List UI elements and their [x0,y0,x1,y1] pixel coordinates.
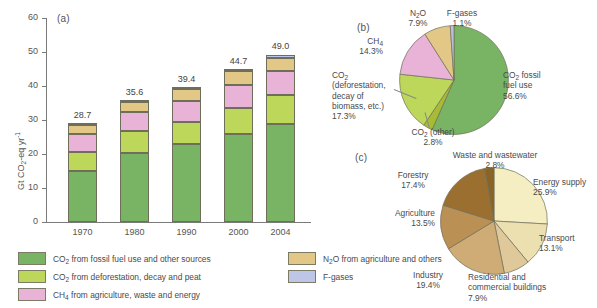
pie-chart-c [440,167,548,275]
bar-segment [266,95,295,124]
pie-b-co2fossil-value: 56.6% [503,91,527,101]
pie-b-co2other-name: CO2 (other) [411,127,454,137]
bar-segment [68,125,97,134]
legend-label: CH4 from agriculture, waste and energy [53,290,200,300]
bar-total-label: 35.6 [112,87,158,97]
legend-item: CO2 from fossil fuel use and other sourc… [18,252,211,265]
bar-segment [224,85,253,108]
bar-stack [266,55,295,222]
bar-segment [68,134,97,152]
bar-chart-panel: (a) Gt CO2-eq yr-1 6050403020100 1970198… [0,0,320,245]
pie-b-co2fossil-l1: CO2 fossil [503,70,541,80]
bar-total-label: 49.0 [258,41,304,51]
legend-label: F-gases [323,272,353,282]
legend-label: CO2 from fossil fuel use and other sourc… [53,254,211,264]
pie-b-co2defor-value: 17.3% [332,111,356,121]
y-tick [42,86,46,87]
bar-segment [68,171,97,222]
bar-segment [266,58,295,72]
pie-b-co2defor-l4: biomass, etc.) [332,101,384,111]
bar-segment [172,144,201,222]
pie-b-ch4-value: 14.3% [359,46,383,56]
pie-c-label-energy: Energy supply 25.9% [533,177,597,198]
legend-swatch [288,270,316,283]
x-tick-label: 1980 [112,227,158,237]
legend-item: F-gases [288,270,353,283]
pie-b-co2defor-l1: CO2 [332,70,348,80]
pie-c-label-industry: Industry 19.4% [400,270,456,291]
bar-total-label: 44.7 [216,56,262,66]
x-tick-label: 2000 [216,227,262,237]
y-tick [42,18,46,19]
x-tick-label: 1990 [164,227,210,237]
y-tick [42,222,46,223]
pie-c-forestry-name: Forestry [398,170,429,180]
y-tick-label: 10 [16,182,38,192]
legend-label: CO2 from deforestation, decay and peat [53,272,201,282]
bar-segment [120,131,149,153]
pie-b-fgases-value: 1.1% [452,18,471,28]
y-tick-label: 40 [16,80,38,90]
bar-stack [120,101,149,222]
pie-b-ch4-name: CH4 [367,36,383,46]
pie-b-fgases-name: F-gases [447,8,477,18]
pie-b-label-ch4: CH4 14.3% [338,36,383,57]
pie-c-forestry-value: 17.4% [401,180,425,190]
y-tick-label: 20 [16,148,38,158]
legend-swatch [288,252,316,265]
bar-stack [172,88,201,222]
y-tick [42,188,46,189]
legend-item: CO2 from deforestation, decay and peat [18,270,201,283]
legend-label: N2O from agriculture and others [323,254,442,264]
pie-b-label-co2-other: CO2 (other) 2.8% [399,127,467,148]
pie-c-waste-name: Waste and wastewater [453,150,537,160]
panel-letter-c: (c) [355,152,367,163]
y-tick-label: 30 [16,114,38,124]
bar-segment [266,71,295,94]
bar-segment [224,108,253,134]
pie-c-transport-name: Transport [539,233,575,243]
panel-letter-b: (b) [357,22,370,33]
pie-c-transport-value: 13.1% [539,243,563,253]
pie-b-co2fossil-l2: fuel use [503,80,532,90]
bar-stack [224,70,253,222]
bar-segment [266,55,295,57]
y-tick-label: 50 [16,46,38,56]
panel-letter-a: (a) [57,13,70,24]
pie-c-energy-value: 25.9% [533,187,557,197]
pie-b-co2defor-l2: (deforestation, [332,80,386,90]
legend-item: N2O from agriculture and others [288,252,442,265]
x-tick-label: 2004 [258,227,304,237]
pie-b-n2o-name: N2O [410,8,426,18]
pie-b-co2defor-l3: decay of [332,91,364,101]
bar-stack [68,124,97,222]
y-axis-line [46,18,47,223]
pie-c-agriculture-name: Agriculture [395,208,435,218]
bar-segment [224,69,253,71]
legend-swatch [18,270,46,283]
bar-segment [172,89,201,101]
x-axis-line [46,222,311,223]
legend-swatch [18,288,46,301]
pie-b-label-co2-fossil: CO2 fossil fuel use 56.6% [503,70,565,101]
pie-c-energy-name: Energy supply [533,177,586,187]
y-tick [42,154,46,155]
x-tick-label: 1970 [60,227,106,237]
pie-c-residential-value: 7.9% [468,293,487,303]
y-tick [42,52,46,53]
pie-c-label-agriculture: Agriculture 13.5% [371,208,435,229]
bar-segment [120,112,149,131]
bar-segment [120,100,149,102]
y-tick-label: 0 [16,216,38,226]
pie-b-label-fgases: F-gases 1.1% [437,8,487,29]
pie-c-waste-value: 2.8% [485,160,504,170]
bar-segment [120,102,149,112]
pie-b-co2other-value: 2.8% [423,137,442,147]
pie-chart-b [399,25,509,135]
pie-b-n2o-value: 7.9% [408,18,427,28]
pie-c-label-transport: Transport 13.1% [539,233,595,254]
pie-c-agriculture-value: 13.5% [411,218,435,228]
y-tick-label: 60 [16,12,38,22]
bar-segment [224,134,253,222]
legend-swatch [18,252,46,265]
